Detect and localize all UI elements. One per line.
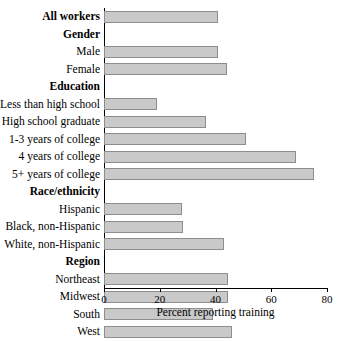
chart-bar xyxy=(104,98,157,110)
chart-row: Less than high school xyxy=(104,96,327,114)
chart-row: White, non-Hispanic xyxy=(104,236,327,254)
chart-row-label: West xyxy=(77,323,100,341)
chart-row-label: Region xyxy=(66,253,101,271)
chart-bar xyxy=(104,46,218,58)
x-axis-title: Percent reporting training xyxy=(104,306,327,318)
chart-row: 5+ years of college xyxy=(104,166,327,184)
chart-row-label: Northeast xyxy=(55,271,100,289)
chart-bar xyxy=(104,133,246,145)
chart-bar xyxy=(104,11,218,23)
chart-row-label: Hispanic xyxy=(59,201,100,219)
chart-row-label: Midwest xyxy=(60,288,100,306)
chart-row-label: 5+ years of college xyxy=(12,166,100,184)
x-axis-tick-label: 20 xyxy=(154,293,165,305)
chart-row: 4 years of college xyxy=(104,148,327,166)
chart-row: Male xyxy=(104,43,327,61)
x-axis-tick-label: 40 xyxy=(210,293,221,305)
plot-area: All workersGenderMaleFemaleEducationLess… xyxy=(104,8,327,288)
chart-bar xyxy=(104,116,206,128)
chart-row-label: Race/ethnicity xyxy=(30,183,100,201)
chart-row-label: South xyxy=(73,306,100,324)
chart-bar xyxy=(104,221,183,233)
chart-bar xyxy=(104,168,314,180)
chart-row: Hispanic xyxy=(104,201,327,219)
chart-row-label: Female xyxy=(66,61,100,79)
chart-bar xyxy=(104,273,228,285)
chart-row-label: Male xyxy=(76,43,100,61)
chart-row-label: 1-3 years of college xyxy=(9,131,100,149)
x-axis-tick xyxy=(216,288,217,292)
x-axis-tick-label: 80 xyxy=(322,293,333,305)
x-axis-tick-label: 0 xyxy=(101,293,107,305)
chart-row-label: Less than high school xyxy=(0,96,100,114)
x-axis-tick-label: 60 xyxy=(266,293,277,305)
chart-row: Education xyxy=(104,78,327,96)
chart-row: Region xyxy=(104,253,327,271)
chart-bar xyxy=(104,326,232,338)
x-axis-tick xyxy=(104,288,105,292)
chart-row: 1-3 years of college xyxy=(104,131,327,149)
chart-row: Northeast xyxy=(104,271,327,289)
chart-row: High school graduate xyxy=(104,113,327,131)
chart-row: Black, non-Hispanic xyxy=(104,218,327,236)
chart-row-label: Black, non-Hispanic xyxy=(5,218,100,236)
chart-row: Gender xyxy=(104,26,327,44)
chart-bar xyxy=(104,63,227,75)
chart-row: All workers xyxy=(104,8,327,26)
x-axis-tick xyxy=(271,288,272,292)
chart-row: Female xyxy=(104,61,327,79)
chart-row-label: High school graduate xyxy=(2,113,100,131)
chart-row-label: All workers xyxy=(42,8,100,26)
chart-row-label: 4 years of college xyxy=(19,148,100,166)
chart-row: Race/ethnicity xyxy=(104,183,327,201)
chart-row-label: White, non-Hispanic xyxy=(4,236,100,254)
chart-bar xyxy=(104,203,182,215)
chart-row-label: Education xyxy=(50,78,101,96)
chart-row-label: Gender xyxy=(63,26,100,44)
x-axis-tick xyxy=(160,288,161,292)
x-axis-tick xyxy=(327,288,328,292)
chart-bar xyxy=(104,238,224,250)
chart-row: West xyxy=(104,323,327,341)
chart-bar xyxy=(104,151,296,163)
